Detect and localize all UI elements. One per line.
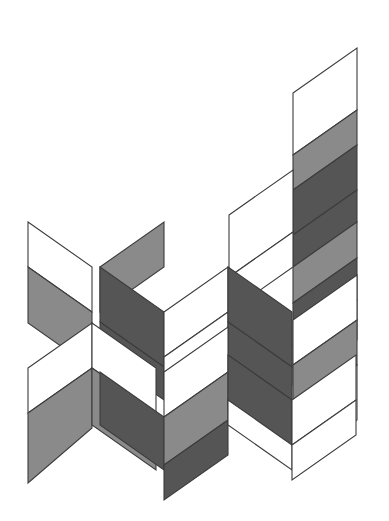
isometric-figure-canvas: Abstract isometric drawing of interlocki…	[0, 0, 389, 521]
